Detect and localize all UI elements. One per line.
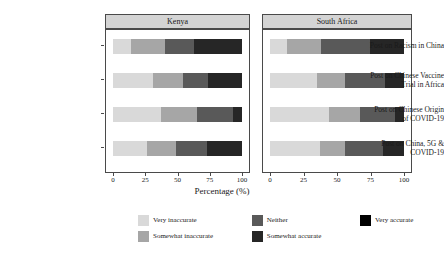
legend-label: Somewhat inaccurate: [153, 232, 213, 240]
bar-kenya-row-2: [113, 107, 242, 122]
legend-label: Very accurate: [375, 216, 413, 224]
bar-segment-somewhat-inaccurate: [317, 73, 345, 88]
x-axis-tick-label: 50: [327, 176, 347, 184]
y-axis-label-0: Post on Racism in China: [344, 41, 444, 50]
y-axis-label-line: Post on Racism in China: [344, 41, 444, 50]
bar-segment-somewhat-inaccurate: [131, 39, 165, 54]
bar-segment-neither: [197, 107, 233, 122]
bar-segment-very-inaccurate: [113, 39, 131, 54]
bar-segment-neither: [183, 73, 209, 88]
legend-label: Very inaccurate: [153, 216, 197, 224]
bar-segment-somewhat-inaccurate: [287, 39, 321, 54]
bar-segment-very-inaccurate: [270, 107, 329, 122]
y-axis-tick: [101, 45, 104, 46]
y-axis-tick: [101, 147, 104, 148]
x-axis-tick-label: 100: [232, 176, 252, 184]
facet-strip-south-africa-label: South Africa: [317, 17, 358, 26]
y-axis-label-line: COVID-19: [344, 148, 444, 157]
bar-segment-somewhat-accurate: [208, 73, 242, 88]
legend-swatch-icon: [360, 215, 371, 226]
legend-item-neither: Neither: [252, 212, 346, 228]
y-axis-label-line: of COVID-19: [344, 114, 444, 123]
bar-segment-somewhat-inaccurate: [153, 73, 183, 88]
y-axis-tick: [101, 79, 104, 80]
legend-label: Neither: [267, 216, 288, 224]
bar-segment-somewhat-inaccurate: [320, 141, 345, 156]
bar-segment-neither: [165, 39, 195, 54]
bar-segment-very-inaccurate: [270, 39, 287, 54]
y-axis-label-3: Post on China, 5G &COVID-19: [344, 139, 444, 157]
y-axis-label-1: Post on Chinese VaccineTrial in Africa: [344, 71, 444, 89]
facet-strip-kenya-label: Kenya: [167, 17, 188, 26]
legend-item-somewhat-accurate: Somewhat accurate: [252, 228, 346, 244]
legend-swatch-icon: [252, 231, 263, 242]
x-axis-tick-label: 0: [260, 176, 280, 184]
bar-kenya-row-0: [113, 39, 242, 54]
bar-segment-neither: [176, 141, 207, 156]
x-axis-title: Percentage (%): [0, 186, 444, 196]
x-axis-tick-label: 75: [200, 176, 220, 184]
y-axis-label-line: Post on China, 5G &: [344, 139, 444, 148]
legend-item-somewhat-inaccurate: Somewhat inaccurate: [138, 228, 238, 244]
plot-area-kenya: [106, 30, 249, 172]
bar-segment-somewhat-inaccurate: [147, 141, 177, 156]
legend-label: Somewhat accurate: [267, 232, 322, 240]
y-axis-label-2: Post on Chinese Originof COVID-19: [344, 105, 444, 123]
legend-item-very-inaccurate: Very inaccurate: [138, 212, 238, 228]
chart-root: Kenya South Africa Post on Racism in Chi…: [0, 0, 444, 263]
legend-swatch-icon: [138, 215, 149, 226]
y-axis-label-line: Post on Chinese Vaccine: [344, 71, 444, 80]
bar-segment-very-inaccurate: [270, 73, 317, 88]
bar-segment-somewhat-accurate: [233, 107, 242, 122]
x-axis-tick-label: 25: [294, 176, 314, 184]
bar-segment-very-inaccurate: [113, 107, 161, 122]
x-axis-tick-label: 100: [394, 176, 414, 184]
facet-strip-south-africa: South Africa: [262, 14, 412, 29]
legend: Very inaccurateNeitherVery accurateSomew…: [138, 212, 438, 244]
plot-panel-kenya: [105, 29, 250, 173]
bar-segment-very-inaccurate: [270, 141, 320, 156]
y-axis-label-line: Trial in Africa: [344, 80, 444, 89]
bar-kenya-row-1: [113, 73, 242, 88]
bar-segment-very-inaccurate: [113, 141, 147, 156]
bar-kenya-row-3: [113, 141, 242, 156]
y-axis-tick: [101, 113, 104, 114]
bar-segment-somewhat-accurate: [194, 39, 242, 54]
legend-swatch-icon: [252, 215, 263, 226]
x-axis-tick-label: 75: [361, 176, 381, 184]
y-axis-label-line: Post on Chinese Origin: [344, 105, 444, 114]
bar-segment-very-inaccurate: [113, 73, 153, 88]
facet-strip-kenya: Kenya: [105, 14, 250, 29]
legend-item-very-accurate: Very accurate: [360, 212, 438, 228]
x-axis-tick-label: 50: [168, 176, 188, 184]
x-axis-tick-label: 0: [103, 176, 123, 184]
legend-swatch-icon: [138, 231, 149, 242]
bar-segment-somewhat-inaccurate: [161, 107, 197, 122]
bar-segment-somewhat-accurate: [207, 141, 242, 156]
x-axis-tick-label: 25: [135, 176, 155, 184]
